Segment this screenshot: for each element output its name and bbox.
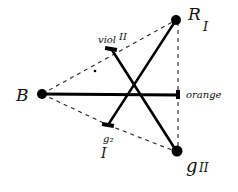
label-b: B (15, 85, 29, 105)
diagram-canvas: B R I g II orange viol II g₂ I (0, 0, 238, 192)
label-viol-sub: II (118, 31, 128, 42)
label-r: R (187, 4, 201, 24)
point-r (171, 15, 181, 25)
point-b (37, 89, 47, 99)
stray-dot (94, 70, 97, 73)
label-g-sub: II (198, 161, 209, 175)
label-viol: viol (98, 34, 116, 45)
label-g2: g₂ (103, 133, 113, 144)
label-r-sub: I (202, 19, 209, 34)
label-g2-sub: I (100, 145, 107, 161)
solid-line-b-orange (42, 94, 178, 95)
dashed-line-g2-g (108, 125, 177, 152)
dashed-line-b-g2 (42, 94, 108, 125)
point-g (172, 146, 183, 157)
point-orange (176, 90, 180, 99)
dashed-line-b-r (42, 20, 176, 94)
solid-line-viol-g (112, 50, 177, 152)
label-orange: orange (186, 89, 222, 100)
label-g: g (186, 155, 198, 176)
point-viol (105, 46, 118, 52)
